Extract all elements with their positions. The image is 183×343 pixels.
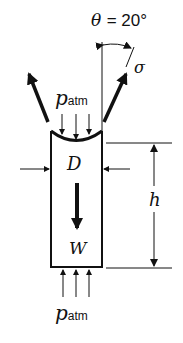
capillary-rise-diagram: θ = 20° σ patm D W h patm: [0, 0, 183, 343]
pressure-symbol: p: [55, 301, 68, 325]
bottom-pressure-arrows: [63, 270, 89, 297]
surface-tension-arrow-right: [104, 74, 126, 122]
weight-label: W: [69, 240, 86, 257]
height-dimension: [106, 143, 172, 268]
sigma-direction-line: [126, 47, 134, 67]
bottom-pressure-label: patm: [55, 303, 88, 323]
angle-value: = 20°: [107, 11, 147, 30]
pressure-subscript: atm: [68, 94, 88, 108]
top-pressure-label: patm: [55, 88, 88, 108]
angle-arc: [103, 44, 131, 48]
pressure-symbol: p: [55, 86, 68, 110]
height-label: h: [149, 191, 161, 209]
angle-label: θ = 20°: [91, 12, 147, 29]
pressure-subscript: atm: [68, 309, 88, 323]
surface-tension-arrow-left: [29, 74, 48, 122]
diameter-label: D: [67, 155, 81, 173]
top-pressure-arrows: [62, 114, 89, 139]
diagram-graphics: [0, 0, 183, 343]
theta-symbol: θ: [91, 10, 101, 30]
sigma-label: σ: [134, 60, 145, 76]
